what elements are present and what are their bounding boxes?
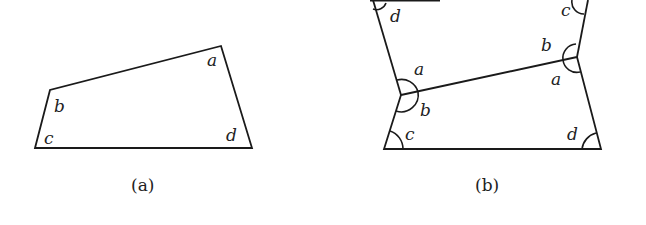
angle-label-top-left-d: d (390, 6, 401, 26)
upper-right-edge (577, 0, 588, 57)
figure-a: a b c d (a) (35, 46, 252, 195)
angle-label-mid-right-a: a (551, 69, 561, 89)
arc-bottom-left-c (390, 131, 403, 149)
arc-mid-left (396, 79, 418, 111)
arc-bottom-right-d (582, 133, 596, 149)
angle-label-d: d (226, 125, 237, 145)
angle-label-top-right-c: c (561, 0, 571, 20)
angle-label-mid-left-b: b (420, 100, 431, 120)
arc-top-right-c (572, 0, 584, 14)
angle-label-c: c (44, 128, 54, 148)
caption-b: (b) (475, 175, 499, 195)
quadrilateral-tiling-diagram: a b c d (a) d c b a a b c d (b) (0, 0, 646, 225)
angle-label-bottom-left-c: c (405, 124, 415, 144)
quadrilateral-a (35, 46, 252, 148)
angle-label-b: b (54, 96, 65, 116)
figure-b: d c b a a b c d (b) (370, 0, 601, 195)
angle-label-bottom-right-d: d (567, 124, 578, 144)
angle-label-a: a (207, 50, 217, 70)
angle-label-mid-left-a: a (414, 59, 424, 79)
angle-label-mid-right-b: b (541, 35, 552, 55)
caption-a: (a) (131, 175, 154, 195)
